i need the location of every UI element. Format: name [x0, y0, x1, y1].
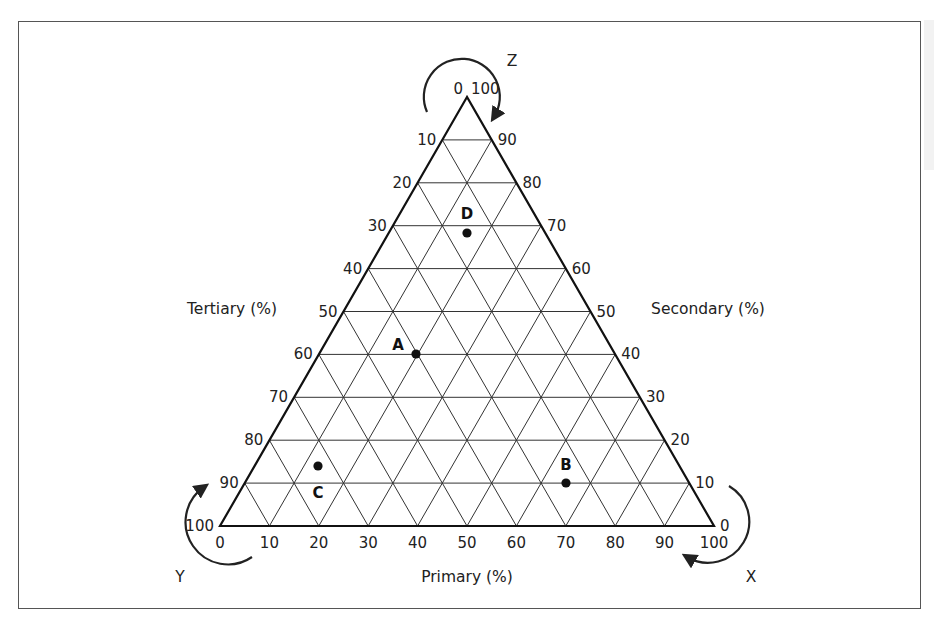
right-tick-label: 50	[597, 303, 616, 321]
gridline-parallel-right	[393, 226, 566, 526]
bottom-tick-label: 90	[655, 534, 674, 552]
left-tick-label: 10	[417, 131, 436, 149]
right-tick-label: 40	[621, 345, 640, 363]
right-tick-label: 0	[720, 517, 730, 535]
gridline-parallel-left	[665, 483, 690, 526]
data-point-a	[411, 349, 420, 358]
bottom-tick-label: 10	[260, 534, 279, 552]
right-tick-label: 20	[671, 431, 690, 449]
right-tick-label: 70	[547, 217, 566, 235]
bottom-tick-label: 60	[507, 534, 526, 552]
bottom-tick-label: 20	[309, 534, 328, 552]
bottom-tick-label: 80	[606, 534, 625, 552]
left-tick-label: 50	[318, 303, 337, 321]
left-tick-label: 70	[269, 388, 288, 406]
left-tick-label: 0	[453, 80, 463, 98]
bottom-tick-label: 0	[215, 534, 225, 552]
axis-title-left: Tertiary (%)	[186, 300, 277, 318]
data-point-label-c: C	[312, 484, 323, 502]
corner-label-x: X	[746, 568, 757, 586]
gridline-parallel-right	[442, 140, 664, 526]
data-point-label-b: B	[560, 456, 571, 474]
axis-title-right: Secondary (%)	[651, 300, 765, 318]
left-tick-label: 60	[294, 345, 313, 363]
gridline-parallel-right	[344, 312, 468, 527]
right-tick-label: 90	[498, 131, 517, 149]
left-tick-label: 90	[220, 474, 239, 492]
right-tick-label: 60	[572, 260, 591, 278]
data-point-d	[462, 228, 471, 237]
right-tick-label: 80	[522, 174, 541, 192]
corner-label-z: Z	[507, 52, 518, 70]
bottom-tick-label: 30	[359, 534, 378, 552]
gridline-parallel-left	[368, 226, 541, 526]
right-tick-label: 30	[646, 388, 665, 406]
gridline-parallel-left	[467, 312, 591, 527]
right-tick-label: 100	[471, 80, 500, 98]
gridline-parallel-right	[245, 483, 270, 526]
corner-label-y: Y	[174, 568, 185, 586]
data-point-label-a: A	[392, 336, 404, 354]
bottom-tick-label: 50	[457, 534, 476, 552]
bottom-tick-label: 40	[408, 534, 427, 552]
ternary-plot: 0102030405060708090100010203040506070809…	[0, 0, 934, 632]
right-tick-label: 10	[695, 474, 714, 492]
data-point-c	[313, 461, 322, 470]
gridline-parallel-left	[269, 140, 491, 526]
data-point-label-d: D	[461, 205, 473, 223]
left-tick-label: 20	[393, 174, 412, 192]
bottom-tick-label: 70	[556, 534, 575, 552]
data-point-b	[561, 478, 570, 487]
gridline-parallel-right	[294, 397, 368, 526]
left-tick-label: 100	[185, 517, 214, 535]
axis-title-bottom: Primary (%)	[421, 568, 513, 586]
left-tick-label: 30	[368, 217, 387, 235]
left-tick-label: 80	[244, 431, 263, 449]
gridline-parallel-left	[566, 397, 640, 526]
bottom-tick-label: 100	[700, 534, 729, 552]
left-tick-label: 40	[343, 260, 362, 278]
